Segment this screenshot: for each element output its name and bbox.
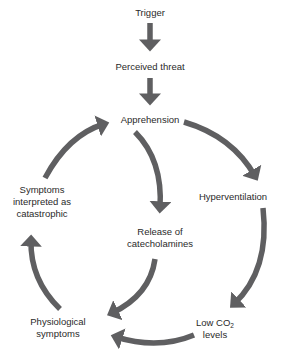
low-co2-line2: levels [203,329,227,340]
release-line1: Release of [137,226,182,237]
arrow-apprehension-to-release [135,132,160,208]
arrow-lowco2-to-physiological [116,335,194,343]
arrow-symptoms-to-apprehension [45,124,104,178]
node-low-co2: Low CO2 levels [196,317,234,341]
node-trigger: Trigger [135,7,165,19]
node-apprehension: Apprehension [121,114,180,126]
node-physiological-symptoms: Physiological symptoms [30,316,85,340]
low-co2-prefix: Low CO [196,317,230,328]
anxiety-cycle-diagram: Trigger Perceived threat Apprehension Hy… [0,0,300,351]
arrow-release-to-physiological [112,259,155,313]
arrow-apprehension-to-hyperventilation [184,122,255,176]
node-symptoms-interpreted: Symptoms interpreted as catastrophic [13,184,71,220]
release-line2: catecholamines [127,238,193,249]
physiological-line2: symptoms [36,328,79,339]
node-hyperventilation: Hyperventilation [199,191,267,203]
arrows-layer [0,0,300,351]
node-perceived-threat: Perceived threat [115,61,184,73]
arrow-physiological-to-symptoms [31,240,60,309]
arrow-hyperventilation-to-lowco2 [234,208,264,304]
symptoms-line1: Symptoms [20,184,65,195]
symptoms-line2: interpreted as [13,196,71,207]
physiological-line1: Physiological [30,316,85,327]
low-co2-subscript: 2 [230,322,234,329]
node-release-catecholamines: Release of catecholamines [127,226,193,250]
symptoms-line3: catastrophic [16,208,67,219]
